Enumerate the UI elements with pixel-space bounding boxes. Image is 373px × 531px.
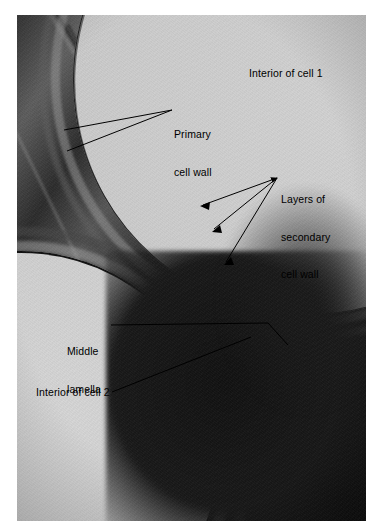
label-interior-cell-2: Interior of cell 2 <box>36 386 110 399</box>
label-primary-cell-wall: Primary cell wall <box>174 103 212 203</box>
micrograph-figure: Interior of cell 1 Primary cell wall Lay… <box>0 0 373 531</box>
label-layers-secondary-cell-wall-line-3: cell wall <box>281 268 330 281</box>
label-layers-secondary-cell-wall-line-2: secondary <box>281 231 330 244</box>
label-middle-lamella-line-1: Middle <box>67 345 101 358</box>
label-interior-cell-1: Interior of cell 1 <box>249 67 323 80</box>
label-middle-lamella: Middle lamella <box>67 320 101 420</box>
label-primary-cell-wall-line-2: cell wall <box>174 166 212 179</box>
label-layers-secondary-cell-wall-line-1: Layers of <box>281 193 330 206</box>
label-layers-secondary-cell-wall: Layers of secondary cell wall <box>281 168 330 306</box>
label-primary-cell-wall-line-1: Primary <box>174 128 212 141</box>
